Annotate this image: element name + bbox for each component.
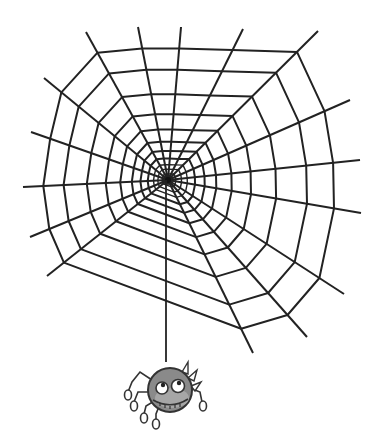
web-spoke xyxy=(86,32,168,180)
web-ring xyxy=(106,114,251,254)
web-spoke xyxy=(168,31,318,180)
spider-web xyxy=(23,27,361,353)
spider-pupil-right xyxy=(177,381,181,385)
spider-web-illustration xyxy=(0,0,387,443)
web-spoke xyxy=(168,160,360,180)
spider-pupil-left xyxy=(161,383,165,387)
web-spoke xyxy=(168,180,307,337)
web-spoke xyxy=(44,78,168,180)
web-ring xyxy=(64,70,307,305)
web-spoke xyxy=(168,180,253,353)
spider xyxy=(125,362,207,429)
web-spoke xyxy=(138,27,168,180)
web-ring xyxy=(132,142,217,224)
